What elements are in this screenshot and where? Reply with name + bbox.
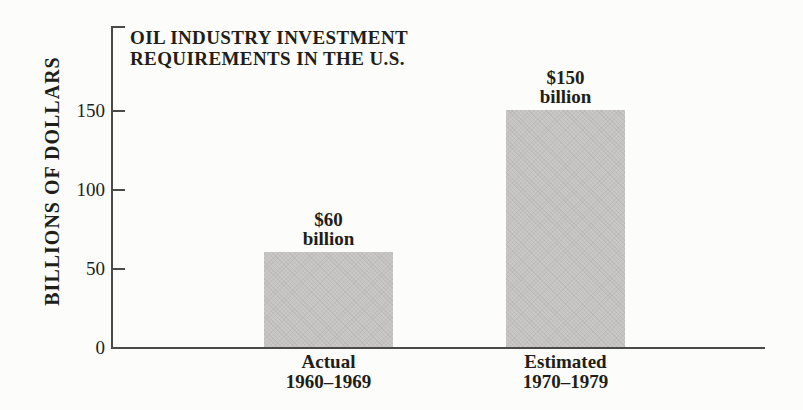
bar-value-label: $60billion <box>239 210 419 248</box>
bar-chart: OIL INDUSTRY INVESTMENT REQUIREMENTS IN … <box>0 0 803 410</box>
bar-value-label-line: billion <box>239 229 419 248</box>
bar-category-label-line: 1960–1969 <box>229 372 429 392</box>
bar-actual <box>264 252 393 347</box>
bar-value-label-line: billion <box>476 87 656 106</box>
bar-value-label-line: $150 <box>476 68 656 87</box>
bar-category-label: Actual1960–1969 <box>229 352 429 392</box>
bar-value-label: $150billion <box>476 68 656 106</box>
bar-estimated <box>506 110 625 347</box>
bar-category-label: Estimated1970–1979 <box>466 352 666 392</box>
bar-category-label-line: Actual <box>229 352 429 372</box>
bars-layer: $60billionActual1960–1969$150billionEsti… <box>0 0 803 410</box>
bar-category-label-line: 1970–1979 <box>466 372 666 392</box>
bar-category-label-line: Estimated <box>466 352 666 372</box>
bar-value-label-line: $60 <box>239 210 419 229</box>
